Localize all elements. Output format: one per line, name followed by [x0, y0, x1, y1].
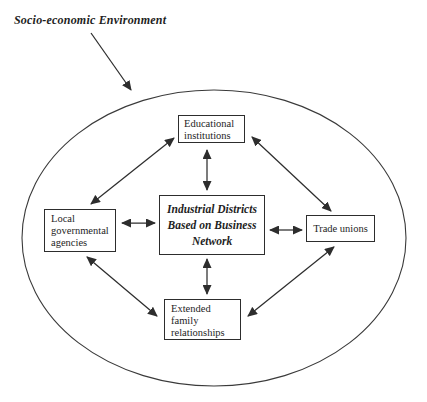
node-text-line: governmental [51, 225, 115, 237]
node-local-governmental-agencies: Local governmental agencies [44, 209, 116, 252]
title-pointer-arrow [91, 33, 131, 90]
connector-extended-trade [248, 247, 334, 316]
connector-local-extended [87, 257, 157, 316]
node-text-line: Educational [184, 118, 244, 130]
node-text-line: agencies [51, 237, 115, 249]
node-text-line: institutions [184, 130, 244, 142]
node-educational-institutions: Educational institutions [178, 115, 245, 143]
node-text-line: Extended [171, 303, 240, 315]
node-text-line: Local [51, 213, 115, 225]
node-extended-family-relationships: Extended family relationships [164, 299, 241, 340]
node-text-line: Based on Business [160, 217, 264, 233]
node-text-line: family [171, 315, 240, 327]
node-text-line: Industrial Districts [160, 201, 264, 217]
node-text-line: Network [160, 233, 264, 249]
node-text-line: relationships [171, 327, 240, 339]
node-text-line: Trade unions [307, 216, 374, 241]
node-industrial-districts: Industrial Districts Based on Business N… [159, 195, 265, 255]
node-trade-unions: Trade unions [306, 215, 375, 242]
diagram-canvas: Socio-economic Environment Educational i… [0, 0, 427, 402]
